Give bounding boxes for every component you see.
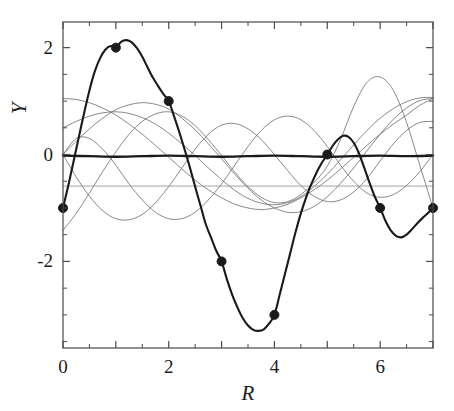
- x-tick-label: 4: [270, 356, 280, 378]
- y-tick-label: 0: [44, 144, 54, 166]
- plot-canvas: [0, 0, 454, 411]
- data-point-marker: [376, 203, 385, 212]
- y-tick-label: 2: [44, 37, 54, 59]
- x-axis-title: R: [242, 381, 255, 406]
- y-axis-title: Y: [7, 103, 32, 115]
- x-tick-label: 6: [375, 356, 385, 378]
- data-point-marker: [111, 43, 120, 52]
- series-near-zero-flat: [63, 156, 433, 157]
- data-point-marker: [217, 257, 226, 266]
- axis-frame: [63, 22, 433, 348]
- x-tick-label: 2: [164, 356, 174, 378]
- bold-curves-group: [63, 40, 433, 331]
- data-point-marker: [323, 150, 332, 159]
- plot-frame: [63, 22, 433, 348]
- data-point-marker: [270, 310, 279, 319]
- axis-ticks: [63, 22, 433, 348]
- series-interpolant: [63, 40, 433, 331]
- y-tick-label: -2: [37, 250, 53, 272]
- data-point-markers: [59, 43, 438, 319]
- series-basis-1: [63, 98, 433, 209]
- x-tick-label: 0: [58, 356, 68, 378]
- data-point-marker: [164, 97, 173, 106]
- chart-figure: 0246 -202 R Y: [0, 0, 454, 411]
